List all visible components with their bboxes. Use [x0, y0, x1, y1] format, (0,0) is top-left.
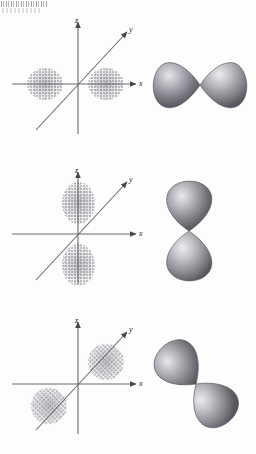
panel-pz: z y x	[0, 154, 256, 304]
lobe-right	[200, 63, 247, 108]
electron-cloud-negative-z	[62, 244, 95, 286]
axis-label-x: x	[139, 380, 143, 388]
electron-cloud-positive-z	[62, 182, 95, 224]
panel-px: z y x	[0, 4, 256, 154]
axis-label-y: y	[129, 326, 133, 334]
axis-label-y: y	[129, 26, 133, 34]
axis-label-y: y	[129, 176, 133, 184]
orbital-lobes-py	[150, 338, 242, 430]
axis-label-z: z	[75, 17, 78, 25]
electron-cloud-negative-x	[27, 68, 63, 100]
axis-label-x: x	[139, 230, 143, 238]
axes-diagram-py	[8, 304, 156, 454]
axis-label-z: z	[75, 167, 78, 175]
orbital-figure: z y x	[0, 0, 256, 454]
lobe-top	[167, 181, 212, 231]
panel-py: z y x	[0, 304, 256, 454]
axis-label-x: x	[139, 80, 143, 88]
axis-label-z: z	[75, 317, 78, 325]
lobe-bottom	[167, 231, 212, 281]
orbital-lobes-pz	[158, 176, 220, 284]
orbital-lobes-px	[148, 54, 252, 116]
lobe-left	[153, 63, 200, 108]
electron-cloud-positive-x	[88, 68, 124, 100]
